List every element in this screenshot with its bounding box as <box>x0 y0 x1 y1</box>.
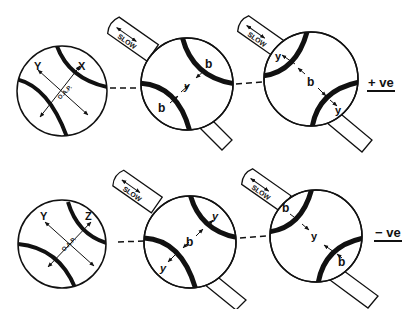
connector-dash <box>118 241 144 242</box>
panel-row1-reference: Y X O.A.P. <box>10 40 112 140</box>
label-X: X <box>78 60 86 72</box>
label-b: b <box>186 235 193 249</box>
label-b: b <box>158 101 165 115</box>
panel-row2-compensated-2: SLOW b y b <box>239 167 378 308</box>
label-y: y <box>275 50 282 62</box>
label-y: y <box>159 262 167 274</box>
label-b: b <box>338 255 345 269</box>
label-y: y <box>211 210 219 222</box>
label-Z: Z <box>85 210 92 222</box>
negative-sign-label: − ve <box>374 226 402 242</box>
panel-row2-compensated-1: SLOW y b y <box>110 169 246 309</box>
connector-dash <box>240 236 266 238</box>
positive-sign-label: + ve <box>367 76 395 92</box>
panel-row2-reference: Y Z O.A.P. <box>18 200 110 290</box>
label-Y: Y <box>40 210 48 222</box>
label-y: y <box>335 104 342 116</box>
diagram-canvas: Y X O.A.P. SLOW b y b SLOW <box>0 0 416 309</box>
connector-dash <box>236 82 262 84</box>
compensator-plate: SLOW <box>105 15 158 61</box>
label-y: y <box>311 230 318 242</box>
label-y: y <box>183 81 190 92</box>
field-of-view-circle <box>18 200 106 288</box>
label-b: b <box>282 201 289 215</box>
label-b: b <box>307 75 314 89</box>
panel-row1-compensated-2: SLOW y b y <box>235 14 372 152</box>
interference-figure-diagram: Y X O.A.P. SLOW b y b SLOW <box>0 0 416 309</box>
label-Y: Y <box>34 60 42 72</box>
label-b: b <box>205 57 212 71</box>
panel-row1-compensated-1: SLOW b y b <box>105 15 236 150</box>
compensator-plate: SLOW <box>110 169 162 213</box>
